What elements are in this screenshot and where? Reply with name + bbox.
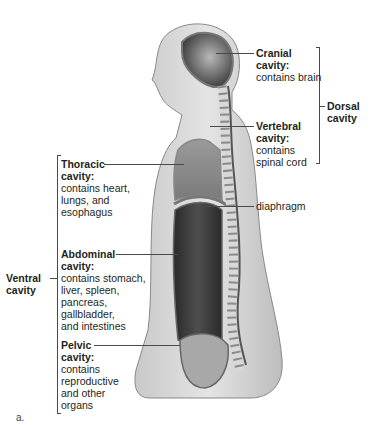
label-diaphragm: diaphragm — [256, 200, 306, 212]
abdominal-cavity-region — [174, 203, 222, 344]
vertebral-leader-line — [210, 126, 254, 127]
ventral-bracket — [57, 155, 58, 413]
panel-label: a. — [16, 412, 24, 423]
label-cranial-cavity: Cranial cavity: contains brain — [256, 47, 321, 83]
label-thoracic-cavity: Thoracic cavity: contains heart, lungs, … — [61, 158, 130, 218]
diaphragm-leader-line — [200, 206, 254, 207]
cranial-leader-line — [216, 53, 254, 54]
label-abdominal-cavity: Abdominal cavity: contains stomach, live… — [61, 248, 146, 332]
label-vertebral-cavity: Vertebral cavity: contains spinal cord — [256, 120, 307, 168]
label-ventral-cavity: Ventral cavity — [6, 272, 41, 296]
thoracic-cavity-region — [174, 139, 222, 200]
label-dorsal-cavity: Dorsal cavity — [327, 100, 360, 124]
label-pelvic-cavity: Pelvic cavity: contains reproductive and… — [61, 339, 119, 411]
